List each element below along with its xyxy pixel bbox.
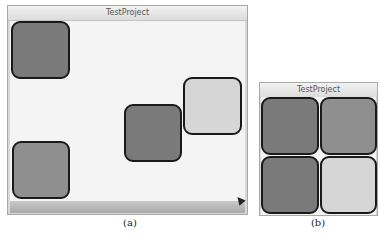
window-b-titlebar[interactable]: TestProject [260,83,377,98]
window-b-tile-3[interactable] [261,156,319,214]
window-a-tile-1[interactable] [11,21,70,79]
window-b-tile-4[interactable] [320,156,377,214]
window-b-tile-2[interactable] [320,97,377,155]
window-b-title: TestProject [297,85,340,94]
caption-a: (a) [110,217,150,228]
window-b-tile-1[interactable] [261,97,319,155]
window-a-tile-4[interactable] [12,141,70,199]
caption-b: (b) [298,217,338,228]
window-a-titlebar[interactable]: TestProject [8,6,247,21]
window-a-title: TestProject [106,8,149,17]
window-a-tile-2[interactable] [124,104,182,162]
window-a-tile-3[interactable] [183,77,242,135]
window-a-statusbar [10,201,245,213]
